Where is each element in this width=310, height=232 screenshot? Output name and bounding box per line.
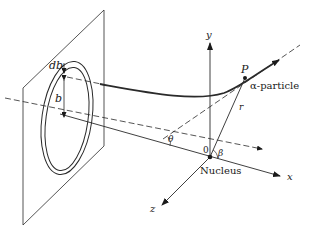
- asymptote-outgoing-dashed: [163, 45, 300, 139]
- incident-axis-dashed: [5, 98, 262, 149]
- label-x-axis: x: [287, 171, 293, 182]
- label-theta: θ: [168, 134, 174, 144]
- label-beta: β: [217, 148, 223, 158]
- radius-line: [210, 78, 245, 157]
- nucleus-dot: [208, 155, 213, 160]
- label-b: b: [55, 92, 62, 105]
- label-nucleus: Nucleus: [200, 165, 241, 176]
- label-r: r: [239, 102, 244, 112]
- alpha-trajectory: [100, 60, 279, 97]
- scattering-diagram: db b y x z P α-particle r θ β 0 Nucleus: [0, 0, 310, 232]
- label-y-axis: y: [205, 29, 212, 40]
- x-axis: [60, 114, 280, 176]
- label-alpha-particle: α-particle: [250, 80, 299, 91]
- asymptote-dashed: [67, 77, 101, 84]
- label-p: P: [240, 63, 249, 76]
- label-z-axis: z: [149, 203, 156, 214]
- label-origin: 0: [203, 145, 209, 155]
- label-db: db: [49, 59, 63, 72]
- point-p-dot: [243, 76, 247, 80]
